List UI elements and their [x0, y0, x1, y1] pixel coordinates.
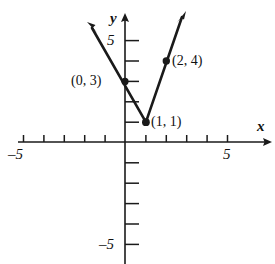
point-label-1-1: (1, 1) — [151, 115, 181, 129]
point-label-2-4: (2, 4) — [172, 54, 202, 68]
y-tick-label-5: 5 — [107, 33, 115, 48]
y-axis-label: y — [110, 11, 117, 26]
graph-figure: x y –5 5 5 –5 (0, 3) (1, 1) (2, 4) — [0, 0, 275, 264]
curve-left-arrowhead — [87, 22, 97, 33]
point-2-4-dot — [163, 57, 170, 64]
x-tick-label-5: 5 — [223, 147, 231, 162]
function-curve-path — [92, 17, 182, 122]
x-tick-label-minus-5: –5 — [8, 147, 23, 162]
y-tick-label-minus-5: –5 — [99, 237, 114, 252]
y-axis — [121, 13, 129, 264]
point-1-1-dot — [142, 118, 150, 126]
x-axis-label: x — [257, 119, 265, 134]
point-0-3-dot — [121, 78, 128, 85]
x-axis — [18, 138, 272, 146]
point-label-0-3: (0, 3) — [71, 74, 101, 88]
coordinate-plane-svg — [0, 0, 275, 264]
